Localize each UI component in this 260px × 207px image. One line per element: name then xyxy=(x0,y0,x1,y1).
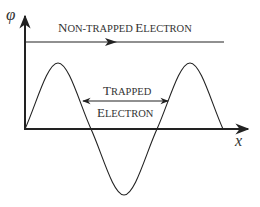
trapped-label-line2: ELECTRON xyxy=(97,105,154,120)
non-trapped-label: NON-TRAPPED ELECTRON xyxy=(58,20,192,35)
x-axis-label: x xyxy=(234,132,242,149)
potential-diagram: φ x NON-TRAPPED ELECTRON TRAPPED ELECTRO… xyxy=(0,0,260,207)
y-axis-label: φ xyxy=(6,5,15,24)
trapped-label-line1: TRAPPED xyxy=(103,83,152,98)
